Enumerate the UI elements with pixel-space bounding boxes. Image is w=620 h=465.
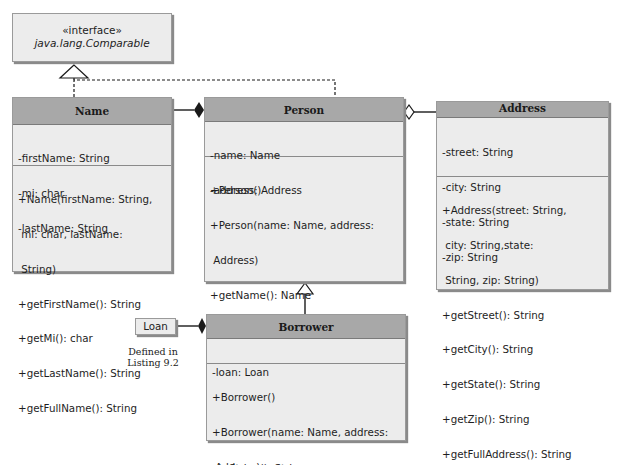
loan-note-line1: Defined in	[118, 346, 188, 357]
loan-note: Defined in Listing 9.2	[118, 346, 188, 368]
interface-stereotype: «interface»	[13, 24, 171, 37]
method: +Person()	[210, 185, 398, 197]
composition-diamond-icon	[194, 102, 204, 118]
class-borrower-title: Borrower	[207, 315, 405, 339]
class-borrower: Borrower -loan: Loan +Borrower() +Borrow…	[206, 314, 406, 441]
class-address-attributes: -street: String -city: String -state: St…	[437, 118, 608, 176]
method: +getFirstName(): String	[18, 299, 166, 311]
method: +getLastName(): String	[18, 368, 166, 380]
method: +Address(street: String,	[442, 205, 603, 217]
method: +getStreet(): String	[442, 310, 603, 322]
interface-comparable: «interface» java.lang.Comparable	[12, 13, 172, 62]
method: +getMi(): char	[18, 333, 166, 345]
method: String)	[18, 264, 166, 276]
class-person-attributes: -name: Name -address: Address	[205, 122, 403, 156]
method: +Borrower()	[212, 392, 400, 404]
class-name-attributes: -firstName: String -mi: char -lastName: …	[13, 125, 171, 165]
method: +getZip(): String	[442, 414, 603, 426]
class-person-title: Person	[205, 98, 403, 122]
loan-note-line2: Listing 9.2	[118, 357, 188, 368]
class-person: Person -name: Name -address: Address +Pe…	[204, 97, 404, 282]
attribute: -street: String	[442, 147, 603, 159]
method: String, zip: String)	[442, 275, 603, 287]
method: +getFullAddress(): String	[442, 449, 603, 461]
method: +getFullName(): String	[18, 403, 166, 415]
method: mi: char, lastName:	[18, 229, 166, 241]
class-address: Address -street: String -city: String -s…	[436, 101, 609, 290]
class-name-title: Name	[13, 98, 171, 125]
aggregation-diamond-icon	[404, 105, 414, 119]
class-name-methods: +Name(firstName: String, mi: char, lastN…	[13, 165, 171, 442]
class-address-title: Address	[437, 102, 608, 118]
method: Address)	[210, 255, 398, 267]
method: +Name(firstName: String,	[18, 194, 166, 206]
realization-arrowhead-icon	[60, 65, 88, 78]
class-name: Name -firstName: String -mi: char -lastN…	[12, 97, 172, 272]
method: city: String,state:	[442, 240, 603, 252]
method: +getName(): Name	[210, 290, 398, 302]
attribute: -firstName: String	[18, 153, 166, 165]
realization-lines	[74, 80, 335, 97]
method: +Person(name: Name, address:	[210, 220, 398, 232]
class-borrower-attributes: -loan: Loan	[207, 339, 405, 363]
class-loan: Loan	[135, 318, 176, 335]
method: +Borrower(name: Name, address:	[212, 427, 400, 439]
method: +getState(): String	[442, 379, 603, 391]
method: +getCity(): String	[442, 344, 603, 356]
interface-name: java.lang.Comparable	[13, 37, 171, 50]
